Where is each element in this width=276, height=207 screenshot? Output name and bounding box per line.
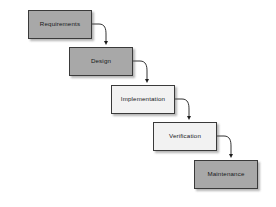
connector-verification-to-maintenance <box>217 136 231 156</box>
phase-label-requirements: Requirements <box>40 21 80 27</box>
phase-box-requirements[interactable]: Requirements <box>28 10 92 39</box>
phase-box-verification[interactable]: Verification <box>153 122 217 151</box>
phase-box-design[interactable]: Design <box>69 47 133 76</box>
phase-box-implementation[interactable]: Implementation <box>111 85 175 114</box>
connector-design-to-implementation <box>133 61 147 81</box>
phase-label-maintenance: Maintenance <box>207 171 244 177</box>
phase-box-maintenance[interactable]: Maintenance <box>194 160 258 189</box>
waterfall-diagram: Requirements Design Implementation Verif… <box>0 0 276 207</box>
phase-label-implementation: Implementation <box>121 96 165 102</box>
connector-implementation-to-verification <box>175 99 189 118</box>
phase-label-design: Design <box>91 58 111 64</box>
phase-label-verification: Verification <box>169 133 201 139</box>
connector-requirements-to-design <box>92 24 106 43</box>
